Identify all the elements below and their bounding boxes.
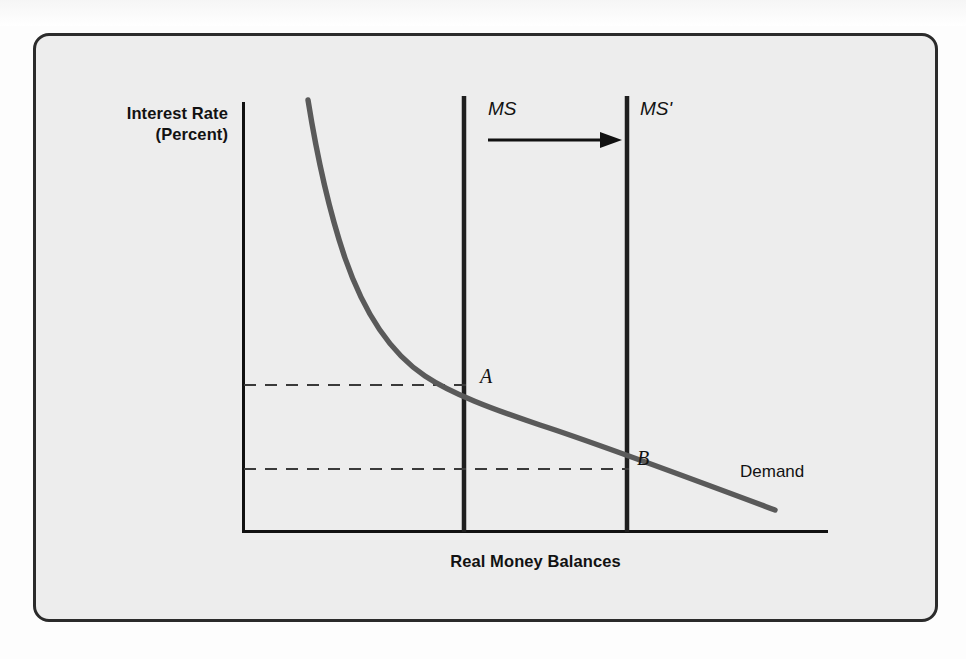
y-axis-label-line2: (Percent)	[156, 125, 228, 143]
y-axis-label-line1: Interest Rate	[127, 104, 228, 122]
point-a-label: A	[480, 365, 492, 388]
figure-page: Interest Rate (Percent) Real Money Balan…	[0, 0, 966, 659]
money-supply-initial-label: MS	[488, 98, 517, 120]
demand-curve-label: Demand	[740, 462, 804, 482]
x-axis-label: Real Money Balances	[243, 552, 828, 571]
demand-curve	[308, 100, 775, 510]
money-supply-new-label: MS'	[640, 98, 672, 120]
y-axis-label: Interest Rate (Percent)	[104, 103, 228, 145]
point-b-label: B	[637, 447, 649, 470]
money-supply-shift-arrow	[488, 132, 622, 148]
